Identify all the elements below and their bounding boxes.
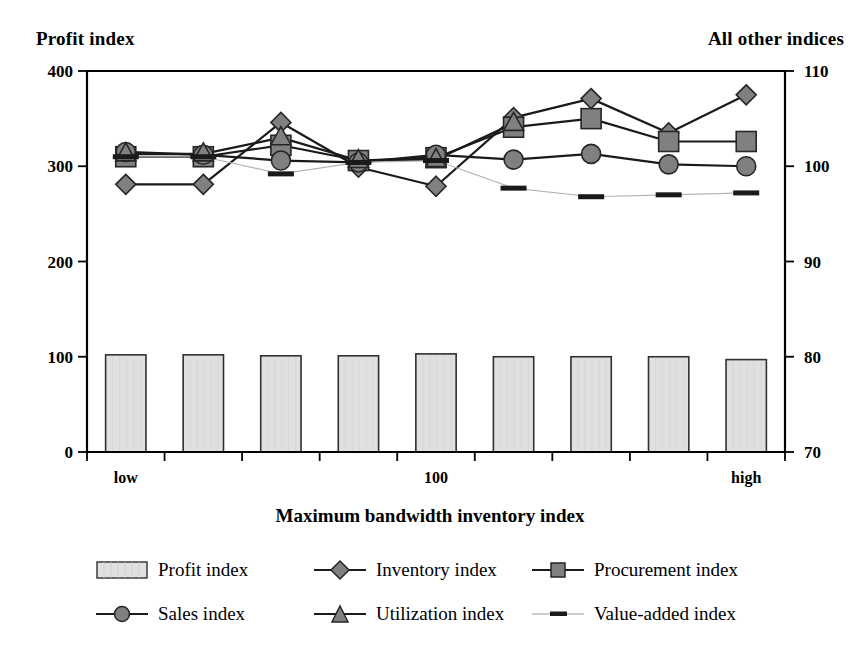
bar [571,357,611,452]
series-line [436,123,514,159]
series-line [591,119,669,142]
series-line [514,119,592,128]
legend-row-2: Sales index Utilization index Value-adde… [0,592,860,636]
y2-tick-label: 70 [804,443,821,462]
bar [261,356,301,452]
chart-figure: Profit index All other indices 010020030… [0,0,860,653]
data-point-diamond [116,174,136,194]
legend-label: Profit index [158,559,248,581]
data-point-dash [113,154,139,159]
data-point-circle [582,144,601,163]
series-line [514,154,592,160]
circle-marker-icon [93,601,151,627]
triangle-marker-icon [311,601,369,627]
data-point-square [659,131,679,151]
y-tick-label: 100 [48,348,74,367]
series-line [358,167,436,186]
y-tick-label: 300 [48,157,74,176]
series-line [591,154,669,164]
y2-tick-label: 100 [804,157,830,176]
data-point-circle [659,155,678,174]
bar [106,355,146,452]
bar [338,356,378,452]
legend-label: Sales index [158,603,245,625]
x-tick-label: 100 [424,469,448,486]
data-point-diamond [581,89,601,109]
series-line [669,164,747,166]
data-point-circle [504,150,523,169]
bar [183,355,223,452]
data-point-square [581,109,601,129]
legend-label: Procurement index [594,559,738,581]
data-point-dash [268,171,294,176]
data-point-dash [578,194,604,199]
legend-item-profit-index: Profit index [93,557,311,583]
diamond-marker-icon [311,557,369,583]
y2-tick-label: 80 [804,348,821,367]
data-point-dash [190,154,216,159]
data-point-square [736,131,756,151]
y2-tick-label: 110 [804,62,829,81]
x-tick-label: high [731,469,761,487]
legend-label: Value-added index [594,603,736,625]
x-tick-label: low [114,469,138,486]
data-point-circle [271,151,290,170]
data-point-diamond [193,174,213,194]
dash-marker-icon [529,601,587,627]
legend-item-sales-index: Sales index [93,601,311,627]
bar [416,354,456,452]
legend: Profit index Inventory index Procurement… [0,548,860,636]
series-line [669,95,747,133]
legend-label: Utilization index [376,603,504,625]
x-axis-title: Maximum bandwidth inventory index [0,505,860,527]
legend-label: Inventory index [376,559,497,581]
data-point-dash [345,160,371,165]
legend-row-1: Profit index Inventory index Procurement… [0,548,860,592]
y-tick-label: 0 [65,443,74,462]
y-tick-label: 200 [48,253,74,272]
square-marker-icon [529,557,587,583]
plot-area: 0100200300400708090100110low100high [0,0,860,500]
legend-item-utilization-index: Utilization index [311,601,529,627]
bars-layer [106,354,767,452]
data-point-dash [423,158,449,163]
series-line [591,99,669,133]
legend-item-value-added-index: Value-added index [529,601,767,627]
bar-swatch-icon [93,557,151,583]
y-tick-label: 400 [48,62,74,81]
data-point-circle [737,157,756,176]
bar [726,360,766,452]
data-point-dash [501,186,527,191]
data-point-dash [656,192,682,197]
data-point-dash [733,190,759,195]
bar [493,357,533,452]
series-line [436,161,514,189]
series-line [514,99,592,118]
legend-item-procurement-index: Procurement index [529,557,767,583]
bar [649,357,689,452]
data-point-diamond [736,85,756,105]
y2-tick-label: 90 [804,253,821,272]
markers-layer [113,85,759,199]
legend-item-inventory-index: Inventory index [311,557,529,583]
series-line [281,138,359,161]
